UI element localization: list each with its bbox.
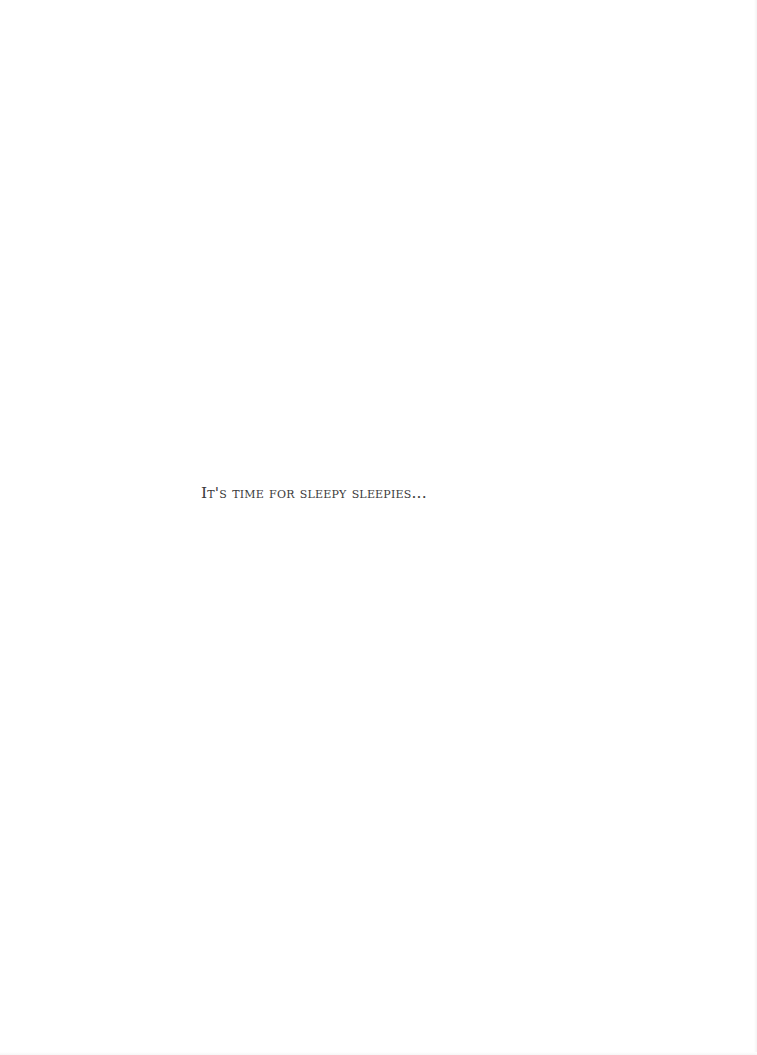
page-text-line: It's time for sleepy sleepies... (201, 483, 427, 503)
book-page: It's time for sleepy sleepies... (0, 0, 757, 1055)
